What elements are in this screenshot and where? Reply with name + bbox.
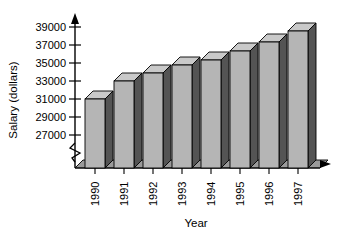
bar-1993[interactable] — [172, 57, 200, 168]
bar-1997-front — [288, 31, 308, 168]
y-tick-label-31000: 31000 — [35, 93, 66, 105]
bar-1992[interactable] — [143, 65, 171, 168]
bar-1994[interactable] — [201, 52, 229, 168]
bar-1992-side — [163, 65, 171, 168]
y-tick-label-39000: 39000 — [35, 21, 66, 33]
bar-1997[interactable] — [288, 23, 316, 168]
bar-1995-side — [250, 43, 258, 168]
x-label-1994: 1994 — [205, 182, 217, 206]
x-label-1995: 1995 — [234, 182, 246, 206]
x-axis-title: Year — [184, 217, 207, 229]
bar-1993-front — [172, 65, 192, 168]
x-label-1990: 1990 — [89, 182, 101, 206]
bar-1991-side — [134, 73, 142, 168]
bar-1994-side — [221, 52, 229, 168]
y-axis-title: Salary (dollars) — [7, 61, 19, 138]
y-tick-label-35000: 35000 — [35, 57, 66, 69]
bar-1997-side — [308, 23, 316, 168]
bar-1996[interactable] — [259, 34, 287, 168]
y-tick-label-29000: 29000 — [35, 111, 66, 123]
x-label-1996: 1996 — [263, 182, 275, 206]
bar-1990-front — [85, 99, 105, 168]
y-tick-label-27000: 27000 — [35, 129, 66, 141]
bar-1996-front — [259, 42, 279, 168]
bar-1992-front — [143, 73, 163, 168]
x-label-1992: 1992 — [147, 182, 159, 206]
bar-1991-front — [114, 81, 134, 168]
bar-1995-front — [230, 51, 250, 168]
bar-chart: 39000 37000 35000 33000 31000 29000 2700… — [0, 0, 337, 233]
y-tick-label-37000: 37000 — [35, 39, 66, 51]
chart-svg: 39000 37000 35000 33000 31000 29000 2700… — [0, 0, 337, 233]
bar-1990-side — [105, 91, 113, 168]
x-label-1997: 1997 — [292, 182, 304, 206]
bar-1993-side — [192, 57, 200, 168]
x-label-1991: 1991 — [118, 182, 130, 206]
bar-1996-side — [279, 34, 287, 168]
x-label-1993: 1993 — [176, 182, 188, 206]
bar-1990[interactable] — [85, 91, 113, 168]
bar-1995[interactable] — [230, 43, 258, 168]
bar-1991[interactable] — [114, 73, 142, 168]
bar-1994-front — [201, 60, 221, 168]
y-tick-label-33000: 33000 — [35, 75, 66, 87]
